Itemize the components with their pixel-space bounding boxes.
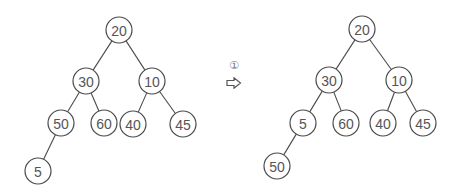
before-edge-30-60 <box>91 93 99 111</box>
after-edge-10-45 <box>405 91 416 111</box>
after-edge-5-50 <box>284 134 297 155</box>
after-node-5: 5 <box>290 110 316 136</box>
node-value: 45 <box>415 116 431 132</box>
node-value: 40 <box>375 116 391 132</box>
before-node-45: 45 <box>170 111 196 137</box>
before-edge-20-30 <box>93 41 112 70</box>
tree-diagram-canvas: 203010506040455 203010560404550 <box>0 0 463 194</box>
before-node-5: 5 <box>25 158 51 184</box>
step-number-label: ① <box>229 59 239 72</box>
after-tree: 203010560404550 <box>264 16 436 179</box>
after-node-60: 60 <box>333 110 359 136</box>
node-value: 20 <box>354 22 370 38</box>
after-edge-30-60 <box>334 92 341 111</box>
after-node-50: 50 <box>264 153 290 179</box>
before-edge-50-5 <box>44 135 56 160</box>
node-value: 40 <box>125 117 141 133</box>
before-node-20: 20 <box>106 17 132 43</box>
before-node-50: 50 <box>48 110 74 136</box>
node-value: 20 <box>111 23 127 39</box>
before-edge-10-40 <box>138 93 146 112</box>
before-node-10: 10 <box>139 68 165 94</box>
before-node-30: 30 <box>73 68 99 94</box>
before-node-60: 60 <box>91 110 117 136</box>
after-node-30: 30 <box>316 67 342 93</box>
node-value: 5 <box>299 116 307 132</box>
after-edge-10-40 <box>388 92 395 111</box>
node-value: 5 <box>34 164 42 180</box>
node-value: 60 <box>96 116 112 132</box>
before-edge-10-45 <box>160 92 176 114</box>
node-value: 45 <box>175 117 191 133</box>
node-value: 10 <box>144 74 160 90</box>
after-edge-20-30 <box>336 40 355 69</box>
node-value: 60 <box>338 116 354 132</box>
after-node-45: 45 <box>410 110 436 136</box>
after-edge-30-5 <box>310 91 323 112</box>
after-edge-20-10 <box>370 40 392 70</box>
after-node-10: 10 <box>386 67 412 93</box>
before-edge-30-50 <box>68 92 80 112</box>
node-value: 30 <box>321 73 337 89</box>
after-tree-edges <box>284 40 417 155</box>
node-value: 10 <box>391 73 407 89</box>
node-value: 50 <box>53 116 69 132</box>
before-node-40: 40 <box>120 111 146 137</box>
before-tree-edges <box>44 41 176 159</box>
node-value: 30 <box>78 74 94 90</box>
hollow-right-arrow-icon <box>226 77 242 89</box>
before-edge-20-10 <box>126 41 145 70</box>
after-node-20: 20 <box>349 16 375 42</box>
node-value: 50 <box>269 159 285 175</box>
before-tree: 203010506040455 <box>25 17 196 184</box>
after-node-40: 40 <box>370 110 396 136</box>
